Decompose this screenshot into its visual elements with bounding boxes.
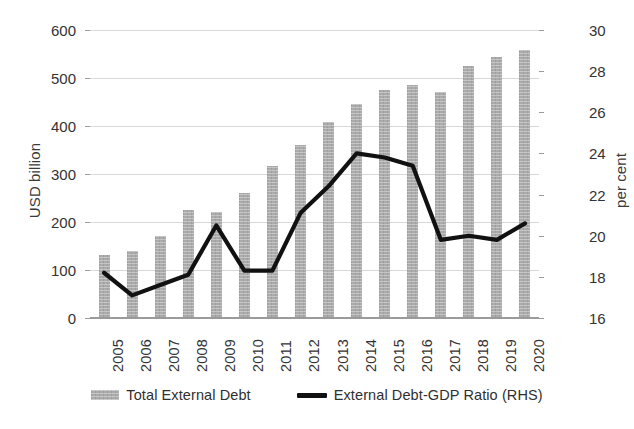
x-tick-label: 2019	[503, 339, 519, 372]
y-axis-right-ticks: 1618202224262830	[589, 0, 629, 429]
x-axis-labels: 2005200620072008200920102011201220132014…	[90, 322, 539, 378]
y-tick-label-right: 16	[589, 311, 606, 326]
line-swatch-icon	[297, 393, 327, 398]
y-tick-mark-right	[539, 30, 544, 31]
y-tick-mark-right	[539, 195, 544, 196]
x-tick-label: 2018	[475, 339, 491, 372]
y-tick-label-left: 100	[51, 263, 76, 278]
x-tick-label: 2007	[166, 339, 182, 372]
y-tick-mark-right	[539, 112, 544, 113]
x-tick-label: 2011	[278, 340, 294, 372]
legend-label-external-debt-gdp-ratio: External Debt-GDP Ratio (RHS)	[334, 387, 543, 403]
y-tick-label-right: 24	[589, 146, 606, 161]
y-tick-mark-right	[539, 277, 544, 278]
x-tick-label: 2006	[138, 339, 154, 372]
x-axis-line	[90, 317, 539, 318]
y-tick-label-left: 0	[68, 311, 76, 326]
ratio-polyline	[104, 153, 525, 295]
y-tick-label-left: 300	[51, 167, 76, 182]
x-tick-label: 2008	[194, 339, 210, 372]
y-axis-left-ticks: 0100200300400500600	[18, 0, 76, 429]
x-tick-label: 2017	[447, 339, 463, 372]
y-tick-label-left: 600	[51, 23, 76, 38]
line-series-external-debt-gdp-ratio	[90, 30, 539, 318]
legend-item-total-external-debt[interactable]: Total External Debt	[91, 387, 250, 403]
x-tick-label: 2015	[391, 339, 407, 372]
y-tick-label-left: 200	[51, 215, 76, 230]
y-tick-label-left: 500	[51, 71, 76, 86]
x-tick-label: 2020	[531, 339, 547, 372]
x-tick-label: 2005	[110, 339, 126, 372]
chart-legend: Total External Debt External Debt-GDP Ra…	[0, 380, 634, 410]
y-tick-mark-right	[539, 236, 544, 237]
y-tick-mark-right	[539, 153, 544, 154]
y-tick-label-right: 28	[589, 64, 606, 79]
y-tick-label-right: 20	[589, 229, 606, 244]
x-tick-label: 2010	[250, 339, 266, 372]
y-tick-label-left: 400	[51, 119, 76, 134]
legend-item-external-debt-gdp-ratio[interactable]: External Debt-GDP Ratio (RHS)	[297, 387, 543, 403]
chart-container: USD billion per cent 0100200300400500600…	[0, 0, 634, 429]
plot-area	[90, 30, 539, 318]
x-tick-label: 2016	[419, 339, 435, 372]
bar-swatch-icon	[91, 390, 119, 400]
y-tick-mark-left	[85, 318, 90, 319]
y-tick-mark-right	[539, 318, 544, 319]
x-tick-label: 2012	[306, 339, 322, 372]
legend-label-total-external-debt: Total External Debt	[126, 387, 250, 403]
y-tick-label-right: 26	[589, 105, 606, 120]
x-tick-label: 2009	[222, 339, 238, 372]
gridline	[90, 318, 539, 319]
y-tick-label-right: 30	[589, 23, 606, 38]
x-tick-label: 2014	[363, 339, 379, 372]
y-tick-label-right: 18	[589, 270, 606, 285]
y-tick-label-right: 22	[589, 188, 606, 203]
x-tick-label: 2013	[335, 339, 351, 372]
y-tick-mark-right	[539, 71, 544, 72]
